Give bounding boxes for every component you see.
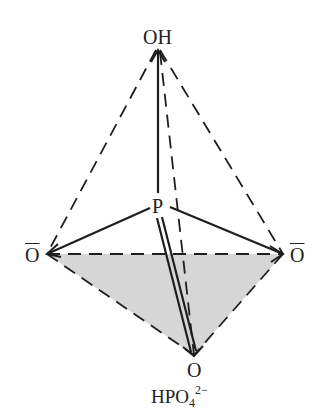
atom-label-p: P — [152, 196, 163, 216]
edge-top-left — [47, 50, 156, 254]
atom-label-o-left: O — [25, 245, 39, 265]
shaded-base-face — [47, 254, 283, 355]
atom-label-oh: OH — [143, 27, 172, 47]
atom-label-o-right: O — [290, 245, 304, 265]
formula-caption: HPO42− — [151, 384, 208, 409]
caption-base: HPO — [151, 386, 189, 407]
bond-p-left — [47, 208, 150, 254]
atom-label-o-bottom: O — [187, 360, 201, 380]
bond-p-right — [170, 207, 283, 254]
caption-subscript: 4 — [189, 396, 195, 410]
caption-superscript: 2− — [195, 383, 208, 397]
